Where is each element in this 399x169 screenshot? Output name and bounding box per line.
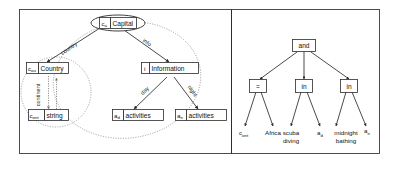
- day-activities-label: activities: [126, 112, 152, 119]
- edge-label-continent: continent: [35, 83, 41, 106]
- leaf-cont: cont: [239, 129, 249, 138]
- edge-info: [124, 30, 169, 62]
- in1-label: in: [301, 83, 306, 90]
- night-activities-label: activities: [189, 112, 215, 119]
- edge-and-to-eq: [260, 52, 297, 79]
- edge-in1-to-ad: [307, 92, 320, 126]
- node-capital[interactable]: ca Capital: [91, 15, 145, 31]
- edge-day: [134, 77, 167, 109]
- edge-eq-to-cont: [245, 92, 256, 126]
- edge-eq-to-africa: [261, 92, 273, 126]
- leaf-ad: ad: [317, 129, 323, 138]
- node-night-activities[interactable]: an activities: [176, 110, 227, 121]
- leaf-midnight-bathing: midnightbathing: [334, 129, 358, 144]
- edge-label-info: info: [142, 37, 153, 47]
- leaf-scuba-diving: scubadiving: [283, 129, 300, 144]
- edge-in1-to-scuba: [291, 92, 301, 126]
- tree-node-in-1[interactable]: in: [296, 80, 313, 93]
- leaf-africa: Africa: [265, 129, 281, 136]
- tree-node-in-2[interactable]: in: [341, 80, 358, 93]
- edge-in2-to-midnight: [336, 92, 346, 126]
- node-information[interactable]: i Information: [142, 63, 199, 74]
- and-label: and: [298, 42, 309, 49]
- information-label: Information: [152, 65, 185, 72]
- figure-container: country info continent day night ca Capi…: [0, 0, 399, 169]
- tree-node-eq[interactable]: =: [250, 80, 267, 93]
- edge-label-country: country: [60, 41, 79, 56]
- capital-label: Capital: [113, 20, 134, 28]
- leaf-an: an: [364, 127, 370, 136]
- eq-label: =: [256, 83, 260, 90]
- edge-in2-to-an: [352, 92, 366, 126]
- node-continent[interactable]: cont string: [29, 110, 69, 121]
- edge-and-to-in2: [311, 52, 349, 79]
- edge-label-day: day: [139, 85, 150, 96]
- node-country[interactable]: cou Country: [27, 63, 69, 74]
- in2-label: in: [346, 83, 351, 90]
- continent-label: string: [47, 112, 63, 120]
- country-label: Country: [41, 65, 65, 73]
- information-var: i: [144, 65, 145, 72]
- tree-node-and[interactable]: and: [293, 40, 316, 52]
- node-day-activities[interactable]: ad activities: [113, 110, 164, 121]
